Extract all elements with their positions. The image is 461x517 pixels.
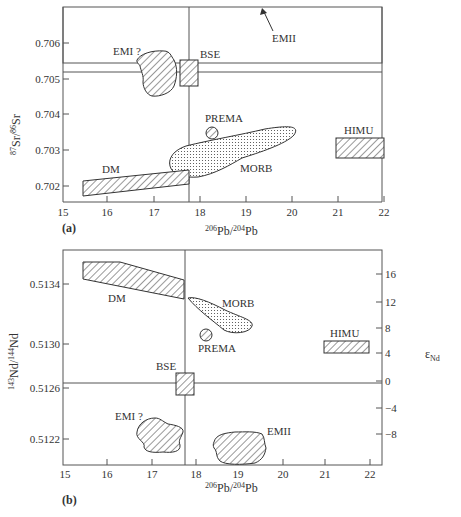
panel-a-label: (a) [62,221,76,235]
panel-b-x-axis-label: 206Pb/204Pb [205,481,258,495]
panel-a-label-dm: DM [102,163,120,175]
panel-b-xtick-label: 21 [320,468,331,480]
figure-canvas: 0.706 0.705 0.704 0.703 0.702 15 16 17 1… [0,0,461,517]
panel-b-y2tick-label: 8 [385,322,391,334]
panel-b-field-himu [324,341,369,353]
panel-a-frame [63,7,382,63]
panel-b-y-axis-label: 143Nd/144Nd [7,333,21,390]
panel-a-field-prema [206,127,218,139]
panel-b-field-prema [200,329,212,341]
panel-a-ytick-label: 0.704 [35,108,60,120]
panel-a-field-bse [180,60,198,86]
panel-a-xtick-label: 17 [149,206,161,218]
panel-a-x-axis-label: 206Pb/204Pb [205,224,258,238]
panel-a-xtick-label: 18 [195,206,207,218]
panel-a-field-emi [137,51,177,96]
panel-a-label-bse: BSE [200,48,220,60]
panel-a-label-emi: EMI ? [113,45,141,57]
panel-a-y-ticks [63,43,69,186]
panel-a: 0.706 0.705 0.704 0.703 0.702 15 16 17 1… [9,7,390,238]
panel-b-ytick-label: 0.5130 [30,338,61,350]
panel-a-xtick-label: 15 [58,206,70,218]
panel-b-ytick-label: 0.5122 [30,433,60,445]
panel-b: 0.5134 0.5130 0.5126 0.5122 16 12 8 4 0 … [7,250,440,507]
panel-a-ytick-label: 0.702 [35,180,60,192]
panel-b-xtick-label: 19 [233,468,245,480]
panel-a-label-prema: PREMA [205,112,243,124]
panel-a-xtick-label: 22 [379,206,390,218]
panel-a-label-emii: EMII [272,32,296,44]
panel-b-y2tick-label: 12 [385,296,396,308]
panel-b-xtick-label: 18 [191,468,203,480]
panel-b-field-dm [83,262,184,299]
panel-b-xtick-label: 15 [60,468,72,480]
panel-b-y2tick-label: −8 [385,428,397,440]
panel-b-label: (b) [62,493,77,507]
panel-b-ytick-label: 0.5134 [30,278,61,290]
panel-b-xtick-label: 17 [147,468,159,480]
panel-a-x-ticks [107,196,384,202]
panel-a-ytick-label: 0.705 [35,73,60,85]
panel-a-label-morb: MORB [240,162,272,174]
panel-b-label-emi: EMI ? [115,410,143,422]
panel-b-xtick-label: 20 [278,468,290,480]
panel-b-y2-axis-label: εNd [425,347,440,363]
panel-a-ytick-label: 0.703 [35,144,60,156]
panel-a-xtick-label: 16 [102,206,114,218]
panel-b-y2tick-label: −4 [385,402,397,414]
panel-b-y2tick-label: 16 [385,268,397,280]
panel-b-label-bse: BSE [156,360,176,372]
panel-b-field-bse [176,373,194,395]
panel-a-emii-arrow [264,12,273,31]
panel-b-label-morb: MORB [222,297,254,309]
panel-b-xtick-label: 16 [102,468,114,480]
panel-a-ytick-label: 0.706 [35,37,60,49]
panel-b-field-emi [137,418,183,452]
panel-b-y-ticks [63,284,69,439]
panel-b-y2-ticks [376,274,382,434]
panel-b-xtick-label: 22 [365,468,376,480]
panel-a-xtick-label: 20 [287,206,299,218]
panel-a-xtick-label: 19 [241,206,253,218]
panel-b-label-dm: DM [108,292,126,304]
panel-b-label-prema: PREMA [198,342,236,354]
panel-a-xtick-label: 21 [333,206,344,218]
panel-b-label-emii: EMII [267,425,291,437]
panel-a-label-himu: HIMU [344,124,373,136]
panel-b-y2tick-label: 4 [385,347,391,359]
panel-a-field-dm [83,170,189,196]
panel-b-y2tick-label: 0 [385,375,391,387]
panel-b-label-himu: HIMU [330,327,359,339]
panel-b-ytick-label: 0.5126 [30,382,61,394]
panel-b-field-emii [213,432,266,464]
panel-a-y-axis-label: 87Sr/86Sr [9,114,23,155]
panel-a-field-himu [336,138,384,158]
arrow-head-icon [260,8,267,15]
